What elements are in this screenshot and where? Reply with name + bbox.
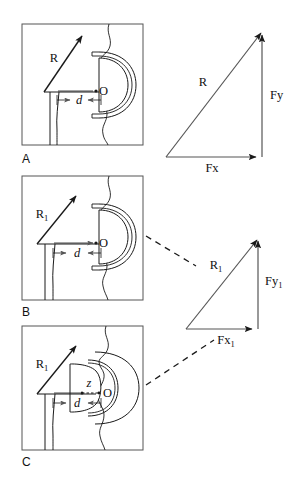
panel-b-group: R1 O d <box>22 176 143 300</box>
distance-label-c: d <box>74 396 81 410</box>
distance-label-a: d <box>76 93 83 107</box>
panel-a-group: R O d <box>22 24 143 145</box>
resultant-label-a: R <box>50 51 59 65</box>
center-label-b: O <box>99 236 108 250</box>
center-point-o-c <box>98 392 101 395</box>
cup-rim-notch-top <box>92 52 99 56</box>
center-point-o-b <box>94 241 97 244</box>
panel-letter-c: C <box>22 455 31 469</box>
force-triangle-top: R Fy Fx <box>166 33 284 175</box>
connector-b-to-triangle <box>146 236 196 266</box>
vertical-component-label-top: Fy <box>270 88 284 102</box>
panel-letter-b: B <box>22 305 30 319</box>
hypotenuse-vector-bottom <box>186 240 257 329</box>
center-label-c: O <box>103 386 112 400</box>
force-triangle-bottom: R1 Fy1 Fx1 <box>186 240 282 349</box>
hypotenuse-vector-top <box>166 33 261 157</box>
offset-label-c: z <box>86 376 92 390</box>
horizontal-component-label-top: Fx <box>205 161 219 175</box>
vertical-component-label-bottom: Fy1 <box>265 274 282 290</box>
connector-c-to-triangle <box>146 340 214 385</box>
center-label-a: O <box>99 84 108 98</box>
hypotenuse-label-bottom: R1 <box>210 258 223 274</box>
figure-canvas: R O d <box>0 0 305 477</box>
center-point-o-a <box>94 89 97 92</box>
cup-rim-notch-bottom <box>92 114 99 118</box>
figure-svg: R O d <box>0 0 305 477</box>
panel-letter-a: A <box>22 152 30 166</box>
hypotenuse-label-top: R <box>199 75 208 89</box>
distance-label-b: d <box>74 246 81 260</box>
cup-rim-notch-top-b <box>92 204 99 208</box>
panel-c-group: R1 O z d <box>22 326 143 450</box>
horizontal-component-label-bottom: Fx1 <box>217 333 234 349</box>
cup-rim-notch-bottom-b <box>92 266 99 270</box>
